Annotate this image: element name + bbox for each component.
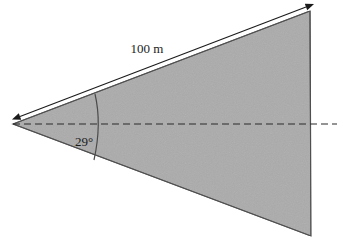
diagram-canvas: 100 m 29° [0, 0, 337, 241]
radius-dimension-label: 100 m [131, 41, 164, 56]
sector-diagram: 100 m 29° [0, 0, 337, 241]
central-angle-label: 29° [75, 134, 93, 149]
